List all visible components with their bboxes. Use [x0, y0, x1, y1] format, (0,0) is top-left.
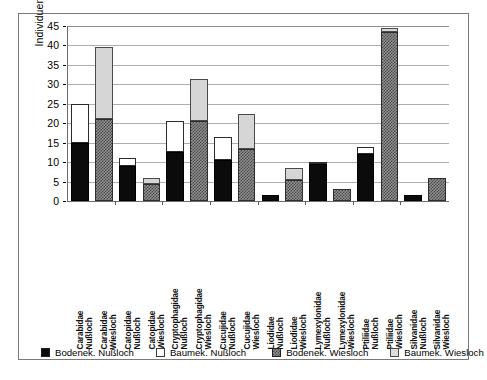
bar-stack: [262, 26, 280, 201]
y-tick-label: 20: [47, 118, 59, 129]
bar-stack: [71, 26, 89, 201]
chart-legend: Bodenek. NußlochBaumek. NußlochBodenek. …: [41, 344, 473, 360]
x-axis-label: CryptophagidaeWiesloch: [195, 288, 213, 349]
bar-segment: [381, 28, 399, 32]
bar-segment: [238, 149, 256, 202]
y-tick-mark: [63, 104, 66, 105]
x-axis-tick: [353, 201, 354, 205]
bar-stack: [404, 26, 422, 201]
bar-segment: [143, 178, 161, 184]
y-tick-mark: [63, 123, 66, 124]
bar-segment: [309, 164, 327, 201]
x-axis-tick: [162, 201, 163, 205]
bar-segment: [357, 147, 375, 155]
chart-frame: Individuen 051015202530354045 CarabidaeN…: [18, 13, 469, 360]
legend-label: Baumek. Wiesloch: [404, 347, 483, 358]
plot-block: Individuen 051015202530354045 CarabidaeN…: [39, 26, 451, 216]
bar-stack: [428, 26, 446, 201]
bar-stack: [238, 26, 256, 201]
x-axis-tick: [400, 201, 401, 205]
bar-segment: [95, 47, 113, 119]
bar-segment: [238, 114, 256, 149]
x-axis-group-ticks: [67, 201, 448, 206]
bar-stack: [95, 26, 113, 201]
bar-segment: [285, 180, 303, 201]
bar-stack: [214, 26, 232, 201]
bar-segment: [190, 121, 208, 201]
y-tick-label: 35: [47, 60, 59, 71]
x-axis-label: LymexylonidaeWiesloch: [338, 291, 356, 349]
y-tick-mark: [63, 45, 66, 46]
bar-segment: [333, 189, 351, 201]
legend-label: Bodenek. Nußloch: [55, 347, 134, 358]
legend-swatch-icon: [272, 348, 281, 357]
bar-segment: [71, 104, 89, 143]
y-tick-mark: [63, 182, 66, 183]
bar-stack: [166, 26, 184, 201]
x-axis-tick: [258, 201, 259, 205]
bar-stack: [357, 26, 375, 201]
y-tick-mark: [63, 201, 66, 202]
y-tick-mark: [63, 84, 66, 85]
legend-label: Baumek. Nußloch: [170, 347, 246, 358]
bar-stack: [381, 26, 399, 201]
legend-item: Baumek. Wiesloch: [390, 347, 483, 358]
legend-swatch-icon: [390, 348, 399, 357]
bar-segment: [166, 121, 184, 152]
x-axis-labels: CarabidaeNußlochCarabidaeWieslochCatopid…: [87, 231, 479, 349]
bar-segment: [190, 79, 208, 122]
bar-stack: [333, 26, 351, 201]
y-tick-label: 0: [53, 196, 59, 207]
x-axis-label: CryptophagidaeNußloch: [171, 288, 189, 349]
x-axis-label: LymexylonidaeNußloch: [314, 291, 332, 349]
bar-segment: [214, 160, 232, 201]
y-tick-label: 30: [47, 79, 59, 90]
bar-stack: [285, 26, 303, 201]
legend-swatch-icon: [41, 348, 50, 357]
bar-segment: [285, 168, 303, 180]
bar-segment: [95, 119, 113, 201]
bar-segment: [119, 166, 137, 201]
legend-swatch-icon: [156, 348, 165, 357]
bar-segment: [428, 178, 446, 201]
y-tick-label: 25: [47, 99, 59, 110]
y-tick-mark: [63, 26, 66, 27]
y-tick-mark: [63, 162, 66, 163]
x-axis-tick: [305, 201, 306, 205]
bar-segment: [143, 184, 161, 202]
y-tick-mark: [63, 65, 66, 66]
bar-segment: [357, 154, 375, 201]
bar-segment: [214, 137, 232, 160]
legend-item: Baumek. Nußloch: [156, 347, 246, 358]
bar-stack: [309, 26, 327, 201]
y-tick-mark: [63, 143, 66, 144]
legend-item: Bodenek. Wiesloch: [272, 347, 368, 358]
bar-series-container: [68, 26, 449, 201]
x-axis-tick: [210, 201, 211, 205]
bar-stack: [119, 26, 137, 201]
x-axis-tick: [115, 201, 116, 205]
y-axis-ticks: 051015202530354045: [39, 26, 63, 201]
bar-segment: [166, 152, 184, 201]
bar-segment: [71, 143, 89, 201]
legend-label: Bodenek. Wiesloch: [286, 347, 368, 358]
y-tick-label: 40: [47, 40, 59, 51]
bar-stack: [143, 26, 161, 201]
bar-segment: [309, 162, 327, 164]
bar-segment: [119, 158, 137, 166]
legend-item: Bodenek. Nußloch: [41, 347, 134, 358]
plot-area: [67, 26, 449, 202]
y-tick-label: 45: [47, 21, 59, 32]
bar-segment: [381, 32, 399, 201]
y-tick-label: 10: [47, 157, 59, 168]
bar-stack: [190, 26, 208, 201]
y-tick-label: 5: [53, 176, 59, 187]
y-tick-label: 15: [47, 137, 59, 148]
